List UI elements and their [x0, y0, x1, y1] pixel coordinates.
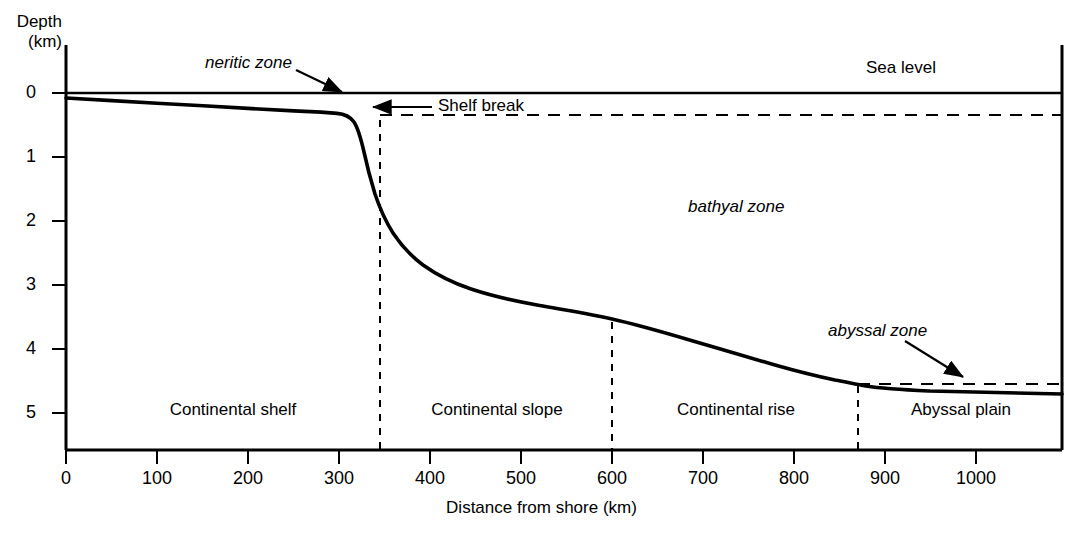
region-label-continental-shelf: Continental shelf: [86, 400, 380, 420]
x-tick-label-100: 100: [117, 468, 197, 489]
x-tick-label-300: 300: [299, 468, 379, 489]
ocean-cross-section-figure: Depth (km) 0 1 2 3 4 5 0 100 200 300 400…: [0, 0, 1083, 542]
x-tick-label-0: 0: [26, 468, 106, 489]
y-axis-ticks: [52, 93, 66, 413]
x-tick-label-600: 600: [572, 468, 652, 489]
neritic-zone-label: neritic zone: [205, 53, 292, 73]
y-axis-title: Depth (km): [2, 12, 62, 52]
neritic-zone-arrow: [296, 70, 342, 92]
shelf-break-label: Shelf break: [438, 96, 524, 116]
region-label-abyssal-plain: Abyssal plain: [860, 400, 1062, 420]
x-axis-title: Distance from shore (km): [0, 498, 1083, 518]
y-axis-title-line2: (km): [2, 32, 62, 52]
x-tick-label-900: 900: [845, 468, 925, 489]
abyssal-zone-arrow: [905, 341, 963, 377]
x-tick-label-800: 800: [754, 468, 834, 489]
y-tick-label-2: 2: [26, 210, 36, 231]
y-tick-label-0: 0: [26, 82, 36, 103]
bathyal-zone-label: bathyal zone: [688, 197, 784, 217]
seafloor-curve: [66, 98, 1062, 394]
x-tick-label-1000: 1000: [936, 468, 1016, 489]
y-tick-label-5: 5: [26, 402, 36, 423]
x-tick-label-700: 700: [663, 468, 743, 489]
y-tick-label-1: 1: [26, 146, 36, 167]
y-tick-label-4: 4: [26, 338, 36, 359]
abyssal-zone-label: abyssal zone: [828, 321, 927, 341]
x-axis-ticks: [66, 450, 976, 464]
sea-level-label: Sea level: [866, 58, 936, 78]
region-label-continental-rise: Continental rise: [614, 400, 858, 420]
y-axis-title-line1: Depth: [2, 12, 62, 32]
region-label-continental-slope: Continental slope: [382, 400, 612, 420]
diagram-canvas: [0, 0, 1083, 542]
x-tick-label-200: 200: [208, 468, 288, 489]
y-tick-label-3: 3: [26, 274, 36, 295]
x-tick-label-400: 400: [390, 468, 470, 489]
x-tick-label-500: 500: [481, 468, 561, 489]
